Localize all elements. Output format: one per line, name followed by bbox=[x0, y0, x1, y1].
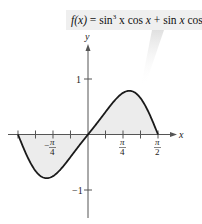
callout-pointer bbox=[141, 30, 164, 86]
x-tick-label-neg-pi-over-4-num: π bbox=[50, 137, 55, 147]
y-tick-label-minus-1: −1 bbox=[72, 185, 83, 196]
x-tick-label-minus: − bbox=[44, 140, 49, 150]
x-tick-label-pi-over-4-num: π bbox=[120, 137, 125, 147]
x-tick-label-pi-over-2-den: 2 bbox=[155, 147, 160, 157]
function-plot: y x 1 −1 − π 4 π 4 π 2 bbox=[0, 0, 202, 224]
x-tick-label-neg-pi-over-4-den: 4 bbox=[50, 147, 55, 157]
y-axis-label: y bbox=[84, 31, 90, 42]
y-axis-arrow-icon bbox=[86, 44, 91, 51]
x-tick-label-pi-over-2-num: π bbox=[155, 137, 160, 147]
y-tick-label-1: 1 bbox=[76, 74, 81, 85]
x-tick-label-pi-over-4-den: 4 bbox=[120, 147, 125, 157]
x-axis-arrow-icon bbox=[170, 132, 177, 137]
x-axis-label: x bbox=[178, 129, 184, 140]
